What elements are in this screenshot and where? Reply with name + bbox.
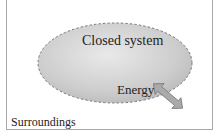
surroundings-label: Surroundings [11,115,76,130]
energy-label: Energy [117,82,154,98]
closed-system-label: Closed system [82,33,163,49]
